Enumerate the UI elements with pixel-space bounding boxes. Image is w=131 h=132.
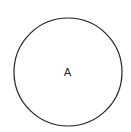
diagram-canvas: A	[0, 0, 131, 132]
circle-a-label: A	[64, 66, 72, 79]
